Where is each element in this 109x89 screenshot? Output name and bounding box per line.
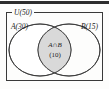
set-a-label: A(30) bbox=[11, 23, 28, 31]
universe-label: U(50) bbox=[13, 9, 33, 17]
set-b-label: B(15) bbox=[81, 23, 98, 31]
intersection-label: A∩B bbox=[41, 42, 69, 49]
intersection-count-label: (10) bbox=[41, 52, 69, 59]
venn-diagram-figure: U(50) A(30) B(15) A∩B (10) bbox=[0, 0, 109, 89]
